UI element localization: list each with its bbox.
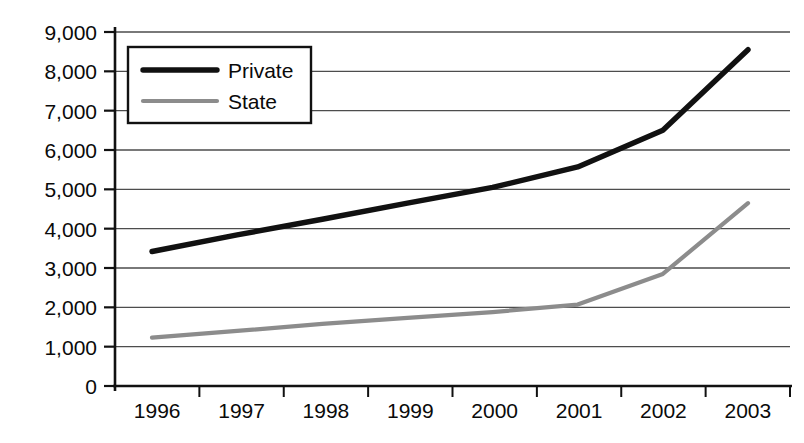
y-axis-tick-label: 8,000: [44, 60, 97, 83]
chart-background: [0, 0, 804, 443]
y-axis-tick-label: 7,000: [44, 100, 97, 123]
chart-container: 01,0002,0003,0004,0005,0006,0007,0008,00…: [0, 0, 804, 443]
legend-label-state: State: [228, 90, 277, 113]
x-axis-tick-label: 2003: [724, 399, 771, 422]
x-axis-tick-label: 2002: [640, 399, 687, 422]
y-axis-tick-label: 0: [85, 375, 97, 398]
legend-label-private: Private: [228, 59, 293, 82]
y-axis-tick-label: 1,000: [44, 336, 97, 359]
x-axis-tick-label: 1999: [387, 399, 434, 422]
legend: Private State: [128, 47, 311, 123]
line-chart: 01,0002,0003,0004,0005,0006,0007,0008,00…: [0, 0, 804, 443]
y-axis-tick-label: 4,000: [44, 218, 97, 241]
x-axis-tick-label: 1997: [218, 399, 265, 422]
x-axis-tick-label: 1998: [303, 399, 350, 422]
y-axis-tick-label: 5,000: [44, 178, 97, 201]
y-axis-tick-label: 9,000: [44, 21, 97, 44]
x-axis-tick-label: 2001: [556, 399, 603, 422]
y-axis-tick-label: 3,000: [44, 257, 97, 280]
y-axis-tick-label: 2,000: [44, 296, 97, 319]
x-axis-tick-label: 1996: [134, 399, 181, 422]
y-axis-tick-label: 6,000: [44, 139, 97, 162]
x-axis-tick-label: 2000: [471, 399, 518, 422]
